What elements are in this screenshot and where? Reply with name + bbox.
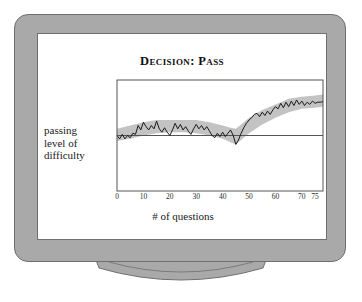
y-axis-label-line-3: difficulty — [44, 149, 106, 162]
x-tick-label: 20 — [166, 192, 174, 201]
x-tick-label: 60 — [272, 192, 280, 201]
x-tick-label: 10 — [140, 192, 148, 201]
x-axis-label: # of questions — [38, 210, 327, 222]
x-tick-label: 40 — [219, 192, 227, 201]
y-axis-label-line-1: passing — [44, 124, 106, 137]
x-tick-label: 50 — [245, 192, 253, 201]
plot-area-wrapper: passing level of difficulty 010203040506… — [38, 34, 327, 240]
figure-root: Decision: Pass passing level of difficul… — [0, 0, 362, 302]
x-axis-tick-labels: 01020304050607075 — [38, 192, 327, 206]
computer-monitor: Decision: Pass passing level of difficul… — [14, 14, 346, 262]
y-axis-label-line-2: level of — [44, 137, 106, 150]
x-tick-label: 75 — [311, 192, 319, 201]
x-tick-label: 0 — [115, 192, 119, 201]
monitor-screen: Decision: Pass passing level of difficul… — [37, 33, 327, 240]
page-running-head — [0, 0, 362, 9]
x-tick-label: 30 — [192, 192, 200, 201]
y-axis-label: passing level of difficulty — [44, 124, 106, 162]
x-tick-label: 70 — [298, 192, 306, 201]
